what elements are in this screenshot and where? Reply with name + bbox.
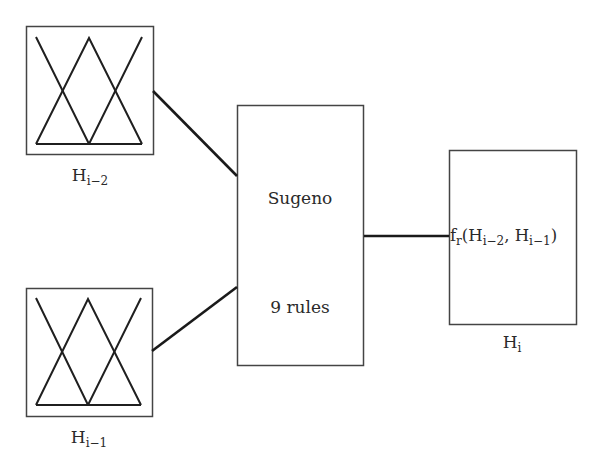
input-bottom-label: Hi−1 xyxy=(71,429,107,449)
output-function: fr(Hi−2, Hi−1) xyxy=(450,228,557,247)
input-box-bottom xyxy=(27,289,153,417)
input-box-top xyxy=(27,27,154,155)
sugeno-box xyxy=(238,106,364,366)
connector-top-to-sugeno xyxy=(153,91,237,176)
input-top-label: Hi−2 xyxy=(72,167,108,187)
output-label: Hi xyxy=(503,334,522,354)
connector-bottom-to-sugeno xyxy=(152,287,237,351)
sugeno-title: Sugeno xyxy=(268,190,333,207)
sugeno-rules: 9 rules xyxy=(270,299,330,316)
